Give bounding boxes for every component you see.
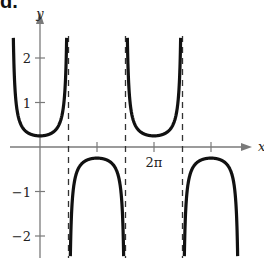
secant-branch (127, 38, 180, 136)
x-axis-arrow-icon (241, 143, 252, 151)
axis-labels: 2π21−1−2xy (12, 6, 264, 244)
y-tick-label: −1 (12, 185, 31, 200)
y-tick-label: 1 (23, 96, 31, 111)
y-tick-label: 2 (23, 51, 31, 66)
y-axis-label: y (35, 6, 44, 21)
secant-graph: 2π21−1−2xy (0, 0, 264, 265)
x-axis-label: x (258, 139, 264, 154)
secant-branch (70, 158, 123, 256)
y-tick-label: −2 (12, 229, 31, 244)
x-tick-label: 2π (146, 155, 163, 170)
secant-branch (184, 158, 237, 256)
